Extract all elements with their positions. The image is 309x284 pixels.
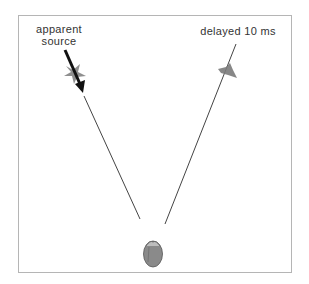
delayed-label: delayed 10 ms [200,25,276,37]
apparent-source-label-line2: source [30,35,88,47]
precedence-effect-diagram: apparent source delayed 10 ms [0,0,309,284]
apparent-source-arrow-icon [65,50,85,93]
left-sight-line [84,96,140,219]
apparent-source-label: apparent source [30,23,88,47]
listener-head-icon [144,241,163,267]
apparent-source-label-line1: apparent [30,23,88,35]
